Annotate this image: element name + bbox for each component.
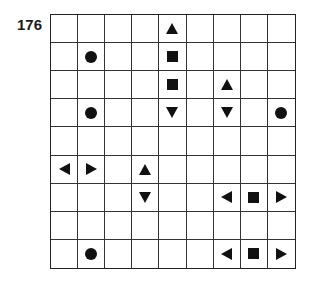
triangle-left-icon: [221, 191, 232, 203]
grid-cell: [268, 15, 295, 43]
grid-cell: [214, 127, 241, 155]
grid-cell: [187, 99, 214, 127]
triangle-down-icon: [139, 192, 151, 203]
triangle-up-icon: [139, 164, 151, 175]
grid-cell: [187, 156, 214, 184]
grid-cell: [51, 240, 78, 268]
grid-cell: [214, 15, 241, 43]
square-icon: [248, 192, 259, 203]
grid-cell: [241, 99, 268, 127]
grid-cell: [268, 184, 295, 212]
grid-cell: [132, 240, 159, 268]
grid-cell: [132, 184, 159, 212]
triangle-down-icon: [166, 107, 178, 118]
grid-cell: [268, 71, 295, 99]
grid-cell: [187, 184, 214, 212]
grid-cell: [132, 15, 159, 43]
grid-cell: [78, 43, 105, 71]
grid-cell: [187, 15, 214, 43]
circle-icon: [275, 107, 287, 119]
grid-cell: [105, 212, 132, 240]
grid-cell: [187, 71, 214, 99]
grid-cell: [268, 212, 295, 240]
grid-cell: [159, 240, 186, 268]
triangle-up-icon: [221, 79, 233, 90]
triangle-up-icon: [166, 23, 178, 34]
grid-cell: [214, 99, 241, 127]
grid-cell: [132, 99, 159, 127]
grid-cell: [268, 156, 295, 184]
grid-cell: [105, 15, 132, 43]
grid-cell: [78, 240, 105, 268]
triangle-right-icon: [276, 248, 287, 260]
grid-cell: [187, 212, 214, 240]
grid-cell: [51, 99, 78, 127]
grid-cell: [159, 71, 186, 99]
grid-cell: [241, 212, 268, 240]
grid-cell: [105, 156, 132, 184]
circle-icon: [85, 51, 97, 63]
grid-cell: [159, 99, 186, 127]
grid-cell: [187, 127, 214, 155]
grid-cell: [159, 156, 186, 184]
square-icon: [167, 79, 178, 90]
grid-cell: [241, 71, 268, 99]
grid-cell: [268, 240, 295, 268]
grid-cell: [132, 71, 159, 99]
grid-cell: [78, 15, 105, 43]
grid-cell: [105, 71, 132, 99]
grid-cell: [51, 71, 78, 99]
grid-cell: [78, 99, 105, 127]
square-icon: [248, 248, 259, 259]
grid-cell: [187, 240, 214, 268]
grid-cell: [241, 184, 268, 212]
puzzle-grid: [50, 14, 296, 269]
grid-cell: [78, 184, 105, 212]
grid-cell: [78, 156, 105, 184]
grid-cell: [241, 156, 268, 184]
grid-cell: [187, 43, 214, 71]
grid-cell: [105, 99, 132, 127]
grid-cell: [241, 240, 268, 268]
grid-cell: [51, 184, 78, 212]
grid-cell: [159, 43, 186, 71]
grid-cell: [214, 240, 241, 268]
circle-icon: [85, 248, 97, 260]
grid-cell: [214, 71, 241, 99]
grid-cell: [105, 43, 132, 71]
grid-cell: [241, 43, 268, 71]
grid-cell: [159, 184, 186, 212]
grid-cell: [268, 127, 295, 155]
grid-cell: [159, 127, 186, 155]
grid-cell: [51, 212, 78, 240]
grid-cell: [214, 43, 241, 71]
grid-cell: [105, 240, 132, 268]
grid-cell: [214, 212, 241, 240]
triangle-left-icon: [221, 248, 232, 260]
triangle-right-icon: [276, 191, 287, 203]
grid-cell: [268, 43, 295, 71]
grid-cell: [159, 15, 186, 43]
grid-cell: [132, 212, 159, 240]
triangle-down-icon: [221, 107, 233, 118]
grid-cell: [78, 71, 105, 99]
grid-cell: [159, 212, 186, 240]
grid-cell: [241, 15, 268, 43]
grid-cell: [105, 127, 132, 155]
grid-cell: [51, 127, 78, 155]
triangle-right-icon: [86, 163, 97, 175]
triangle-left-icon: [59, 163, 70, 175]
circle-icon: [85, 107, 97, 119]
grid-cell: [214, 156, 241, 184]
grid-cell: [132, 156, 159, 184]
grid-cell: [51, 15, 78, 43]
grid-cell: [214, 184, 241, 212]
grid-cell: [268, 99, 295, 127]
grid-cell: [132, 43, 159, 71]
grid-cell: [241, 127, 268, 155]
grid-cell: [105, 184, 132, 212]
square-icon: [167, 51, 178, 62]
grid-cell: [78, 127, 105, 155]
grid-cell: [132, 127, 159, 155]
puzzle-number: 176: [17, 16, 42, 33]
